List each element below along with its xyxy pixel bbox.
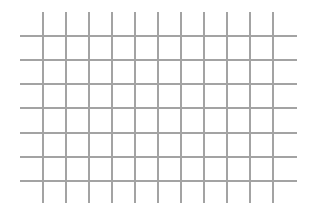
grid-diagram — [0, 0, 313, 222]
grid-horizontal-line — [20, 83, 297, 85]
grid-horizontal-line — [20, 156, 297, 158]
grid-horizontal-line — [20, 59, 297, 61]
grid-horizontal-line — [20, 180, 297, 182]
grid-horizontal-line — [20, 107, 297, 109]
grid-horizontal-line — [20, 132, 297, 134]
grid-horizontal-line — [20, 35, 297, 37]
